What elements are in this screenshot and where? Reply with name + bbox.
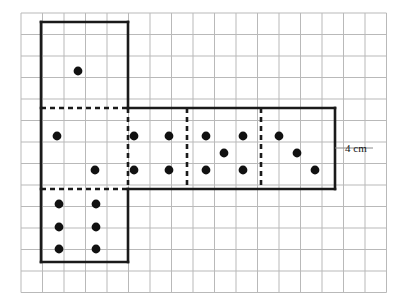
domino-pip: [220, 149, 229, 158]
domino-pip: [53, 132, 62, 141]
domino-pip: [91, 166, 100, 175]
domino-pip: [130, 132, 139, 141]
domino-pip: [130, 166, 139, 175]
net-diagram-svg: 4 cm: [0, 0, 406, 296]
domino-pip: [202, 132, 211, 141]
domino-pip: [293, 149, 302, 158]
domino-pip: [92, 245, 101, 254]
domino-pip: [275, 132, 284, 141]
domino-pip: [55, 200, 64, 209]
domino-pip: [311, 166, 320, 175]
diagram-canvas: 4 cm: [0, 0, 406, 296]
domino-pip: [165, 166, 174, 175]
domino-pip: [55, 223, 64, 232]
domino-pip: [239, 166, 248, 175]
domino-pip: [55, 245, 64, 254]
domino-pip: [239, 132, 248, 141]
domino-pip: [92, 223, 101, 232]
domino-pip: [74, 67, 83, 76]
domino-pip: [92, 200, 101, 209]
domino-pip: [165, 132, 174, 141]
dimension-label: 4 cm: [345, 142, 367, 154]
domino-pip: [202, 166, 211, 175]
